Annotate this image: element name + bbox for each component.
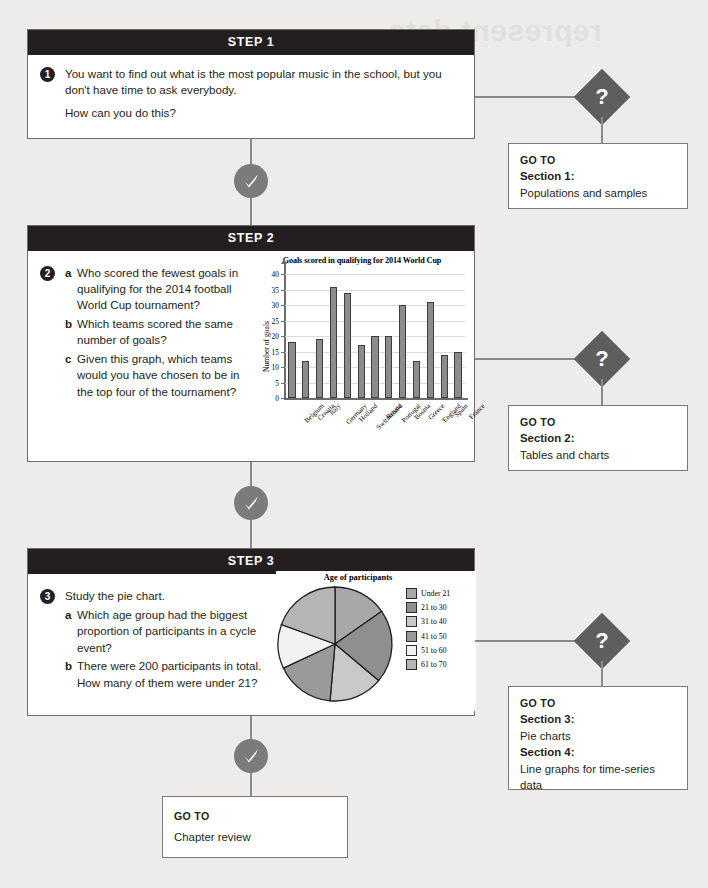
- bar-chart-gridline: [285, 274, 465, 275]
- step-2-sublist: a Who scored the fewest goals in qualify…: [65, 265, 255, 401]
- step-1-paragraph-1: You want to find out what is the most po…: [65, 66, 462, 99]
- goto-label-3: GO TO: [520, 696, 676, 711]
- goto-section-4: Section 4:: [520, 746, 574, 758]
- bar-chart-y-tick-label: 30: [261, 301, 279, 310]
- pie-chart-legend: Under 2121 to 3031 to 4041 to 5051 to 60…: [406, 588, 450, 673]
- connector-diamond3-to-goto3: [601, 661, 603, 687]
- question-mark-icon-1: ?: [582, 77, 622, 117]
- check-circle-3: [234, 739, 268, 773]
- final-goto-detail: Chapter review: [174, 829, 336, 846]
- step-3-paragraph-1: Study the pie chart.: [65, 588, 280, 604]
- bar-chart-x-tick-label: France: [468, 402, 487, 421]
- pie-legend-swatch: [406, 588, 417, 599]
- bar-chart-tick-mark: [281, 398, 284, 399]
- goto-detail-1: Populations and samples: [520, 185, 676, 202]
- step-2-item-b-label: b: [65, 316, 77, 332]
- bar-chart-tick-mark: [281, 352, 284, 353]
- bar-chart-bar: [413, 361, 420, 398]
- check-circle-1: [234, 164, 268, 198]
- worksheet-page: represent data STEP 1 1 You want to find…: [0, 0, 708, 888]
- connector-step3-to-check3: [250, 716, 252, 739]
- step-2-box: STEP 2 2 a Who scored the fewest goals i…: [27, 225, 475, 462]
- pie-legend-label: 41 to 50: [421, 632, 447, 641]
- connector-step2-to-diamond2: [475, 358, 585, 360]
- pie-legend-label: 51 to 60: [421, 646, 447, 655]
- pie-legend-item: 61 to 70: [406, 659, 450, 670]
- bar-chart-bar: [316, 339, 323, 398]
- step-1-box: STEP 1 1 You want to find out what is th…: [27, 29, 475, 139]
- pie-legend-label: 61 to 70: [421, 660, 447, 669]
- goto-detail-2: Tables and charts: [520, 447, 676, 464]
- pie-legend-swatch: [406, 645, 417, 656]
- step-2-header: STEP 2: [28, 226, 474, 251]
- step-2-item-c-text: Given this graph, which teams would you …: [77, 351, 255, 400]
- connector-diamond2-to-goto2: [601, 379, 603, 406]
- goto-section-1: Section 1:: [520, 170, 574, 182]
- goto-box-2[interactable]: GO TO Section 2: Tables and charts: [508, 405, 688, 471]
- bar-chart-y-tick-label: 0: [261, 394, 279, 403]
- check-circle-2: [234, 486, 268, 520]
- step-3-box: STEP 3 3 Study the pie chart. a Which ag…: [27, 548, 475, 716]
- question-mark-icon-3: ?: [582, 621, 622, 661]
- bar-chart-y-axis-arrow: [281, 259, 287, 264]
- bar-chart-plot-area: 0510152025303540BelgiumCroatiaItalyGerma…: [285, 268, 465, 398]
- bar-chart-bar: [358, 345, 365, 398]
- bar-chart-y-tick-label: 10: [261, 363, 279, 372]
- step-2-text: a Who scored the fewest goals in qualify…: [65, 265, 255, 403]
- list-item: b Which teams scored the same number of …: [65, 316, 255, 349]
- list-item: a Which age group had the biggest propor…: [65, 607, 280, 656]
- goto-box-3[interactable]: GO TO Section 3: Pie charts Section 4: L…: [508, 686, 688, 790]
- step-3-item-b-label: b: [65, 658, 77, 674]
- question-mark-icon-2: ?: [582, 339, 622, 379]
- pie-legend-label: Under 21: [421, 589, 450, 598]
- step-3-item-b-text: There were 200 participants in total. Ho…: [77, 658, 280, 691]
- pie-chart-title: Age of participants: [258, 573, 458, 582]
- pie-legend-swatch: [406, 616, 417, 627]
- question-number-3: 3: [40, 589, 55, 604]
- question-number-2: 2: [40, 266, 55, 281]
- step-1-body: 1 You want to find out what is the most …: [28, 55, 474, 134]
- step-2-item-a-label: a: [65, 265, 77, 281]
- list-item: b There were 200 participants in total. …: [65, 658, 280, 691]
- bar-chart-bar: [302, 361, 309, 398]
- goto-detail-4: Line graphs for time-series data: [520, 761, 676, 794]
- pie-legend-swatch: [406, 631, 417, 642]
- bar-chart-bar: [441, 355, 448, 398]
- pie-legend-label: 21 to 30: [421, 603, 447, 612]
- connector-step1-to-check1: [250, 139, 252, 164]
- goto-box-1[interactable]: GO TO Section 1: Populations and samples: [508, 143, 688, 209]
- connector-check3-to-final: [250, 773, 252, 797]
- pie-legend-swatch: [406, 602, 417, 613]
- bar-chart-y-tick-label: 25: [261, 317, 279, 326]
- pie-chart-svg: [276, 585, 394, 703]
- goto-label-1: GO TO: [520, 153, 676, 168]
- bar-chart-gridline: [285, 290, 465, 291]
- bar-chart-y-tick-label: 40: [261, 270, 279, 279]
- step-3-header: STEP 3: [28, 549, 474, 574]
- bar-chart-y-axis: [284, 264, 286, 398]
- connector-step2-to-check2: [250, 462, 252, 486]
- pie-legend-item: Under 21: [406, 588, 450, 599]
- bar-chart-x-axis: [284, 398, 468, 400]
- final-goto-label: GO TO: [174, 809, 336, 824]
- list-item: a Who scored the fewest goals in qualify…: [65, 265, 255, 314]
- pie-chart: Age of participants Under 2121 to 3031 t…: [276, 571, 476, 711]
- step-3-item-a-label: a: [65, 607, 77, 623]
- bar-chart-bar: [371, 336, 378, 398]
- bar-chart-bar: [399, 305, 406, 398]
- bar-chart-tick-mark: [281, 305, 284, 306]
- bar-chart-gridline: [285, 305, 465, 306]
- bar-chart-y-tick-label: 20: [261, 332, 279, 341]
- goto-section-3: Section 3:: [520, 713, 574, 725]
- final-goto-box[interactable]: GO TO Chapter review: [162, 796, 348, 858]
- step-1-paragraph-2: How can you do this?: [65, 105, 462, 121]
- pie-legend-item: 41 to 50: [406, 631, 450, 642]
- bar-chart-tick-mark: [281, 367, 284, 368]
- bar-chart-tick-mark: [281, 383, 284, 384]
- connector-step1-to-diamond1: [475, 96, 585, 98]
- pie-legend-label: 31 to 40: [421, 617, 447, 626]
- question-number-1: 1: [40, 67, 55, 82]
- step-3-text: Study the pie chart. a Which age group h…: [65, 588, 280, 694]
- pie-legend-item: 51 to 60: [406, 645, 450, 656]
- goto-detail-3: Pie charts: [520, 728, 676, 745]
